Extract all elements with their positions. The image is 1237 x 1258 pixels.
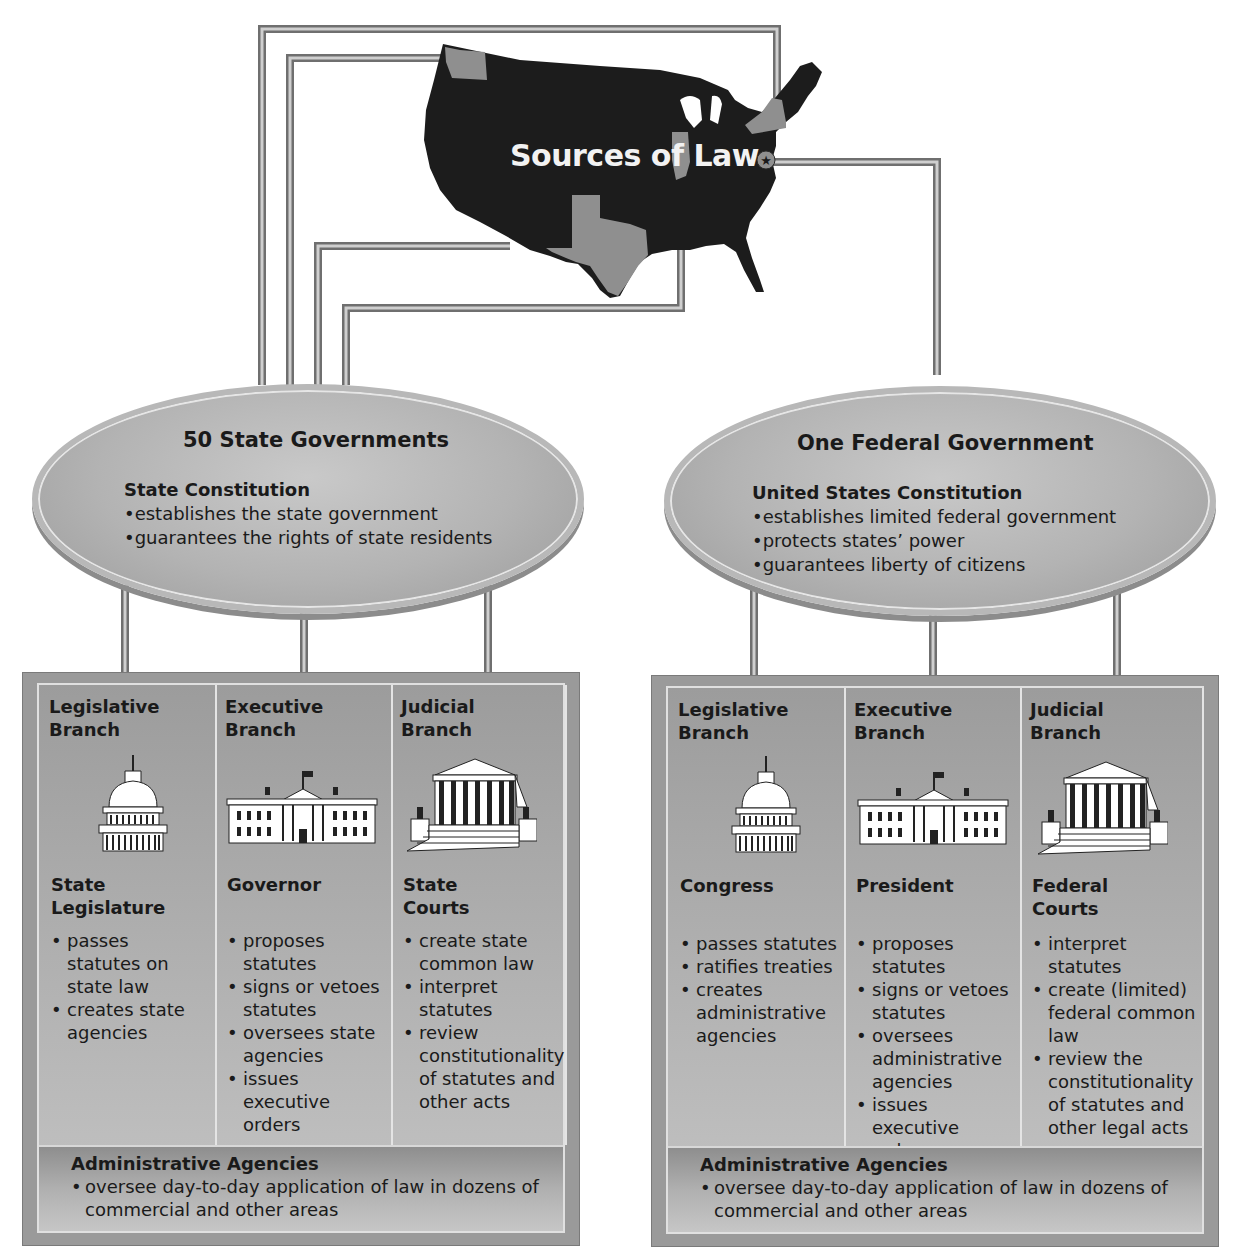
list-item: signs or vetoes statutes [227,975,383,1021]
state-constitution-heading: State Constitution [124,479,310,500]
office-name: State Legislature [51,873,165,919]
list-item: ratifies treaties [680,955,840,978]
office-name: Federal Courts [1032,874,1108,920]
us-constitution-heading: United States Constitution [752,482,1022,503]
power-list: passes statutes on state law creates sta… [51,929,201,1044]
list-item: oversee day-to-day application of law in… [700,1176,1170,1222]
list-item: create state common law [403,929,563,975]
agencies-list: oversee day-to-day application of law in… [71,1175,541,1221]
list-item: review constitutionality of statutes and… [403,1021,563,1113]
agencies-heading: Administrative Agencies [71,1153,319,1174]
office-name: Congress [680,874,774,897]
power-list: proposes statutes signs or vetoes statut… [227,929,383,1136]
list-item: guarantees the rights of state residents [124,526,492,550]
branch-heading: Judicial Branch [1030,698,1104,744]
us-constitution-list: establishes limited federal government p… [752,505,1116,577]
list-item: passes statutes [680,932,840,955]
courthouse-icon [1038,760,1168,858]
capitol-dome-icon [730,756,802,856]
state-judicial-column: Judicial Branch S [391,685,567,1145]
capitol-dome-icon [97,755,169,855]
list-item: protects states’ power [752,529,1116,553]
svg-text:★: ★ [760,153,772,168]
state-constitution-list: establishes the state government guarant… [124,502,492,550]
list-item: interpret statutes [1032,932,1200,978]
list-item: establishes limited federal government [752,505,1116,529]
state-administrative-agencies: Administrative Agencies oversee day-to-d… [39,1145,563,1231]
state-branches-panel: Legislative Branch State Legislature [22,672,580,1246]
list-item: creates administrative agencies [680,978,840,1047]
office-name: State Courts [403,873,470,919]
agencies-heading: Administrative Agencies [700,1154,948,1175]
list-item: issues executive orders [227,1067,383,1136]
list-item: interpret statutes [403,975,563,1021]
federal-branches-panel: Legislative Branch Congress pas [651,675,1219,1247]
office-name: Governor [227,873,321,896]
office-name: President [856,874,954,897]
state-legislative-column: Legislative Branch State Legislature [39,685,217,1145]
branch-heading: Executive Branch [225,695,323,741]
white-house-icon [225,769,379,849]
branch-heading: Executive Branch [854,698,952,744]
white-house-icon [856,770,1010,850]
courthouse-icon [407,757,537,855]
federal-executive-column: Executive Branch [844,688,1022,1146]
agencies-list: oversee day-to-day application of law in… [700,1176,1170,1222]
list-item: guarantees liberty of citizens [752,553,1116,577]
power-list: interpret statutes create (limited) fede… [1032,932,1200,1139]
list-item: oversees state agencies [227,1021,383,1067]
map-title: Sources of Law [510,138,759,173]
power-list: proposes statutes signs or vetoes statut… [856,932,1016,1162]
list-item: proposes statutes [856,932,1016,978]
list-item: signs or vetoes statutes [856,978,1016,1024]
branch-heading: Judicial Branch [401,695,475,741]
list-item: review the constitutionality of statutes… [1032,1047,1200,1139]
state-government-title: 50 State Governments [183,428,449,452]
branch-heading: Legislative Branch [49,695,159,741]
list-item: creates state agencies [51,998,201,1044]
federal-judicial-column: Judicial Branch F [1020,688,1204,1146]
list-item: establishes the state government [124,502,492,526]
list-item: proposes statutes [227,929,383,975]
federal-legislative-column: Legislative Branch Congress pas [668,688,846,1146]
power-list: create state common law interpret statut… [403,929,563,1113]
list-item: oversees administrative agencies [856,1024,1016,1093]
list-item: passes statutes on state law [51,929,201,998]
power-list: passes statutes ratifies treaties create… [680,932,840,1047]
branch-heading: Legislative Branch [678,698,788,744]
list-item: create (limited) federal common law [1032,978,1200,1047]
federal-government-title: One Federal Government [797,431,1093,455]
state-executive-column: Executive Branch [215,685,393,1145]
list-item: oversee day-to-day application of law in… [71,1175,541,1221]
federal-administrative-agencies: Administrative Agencies oversee day-to-d… [668,1146,1202,1232]
